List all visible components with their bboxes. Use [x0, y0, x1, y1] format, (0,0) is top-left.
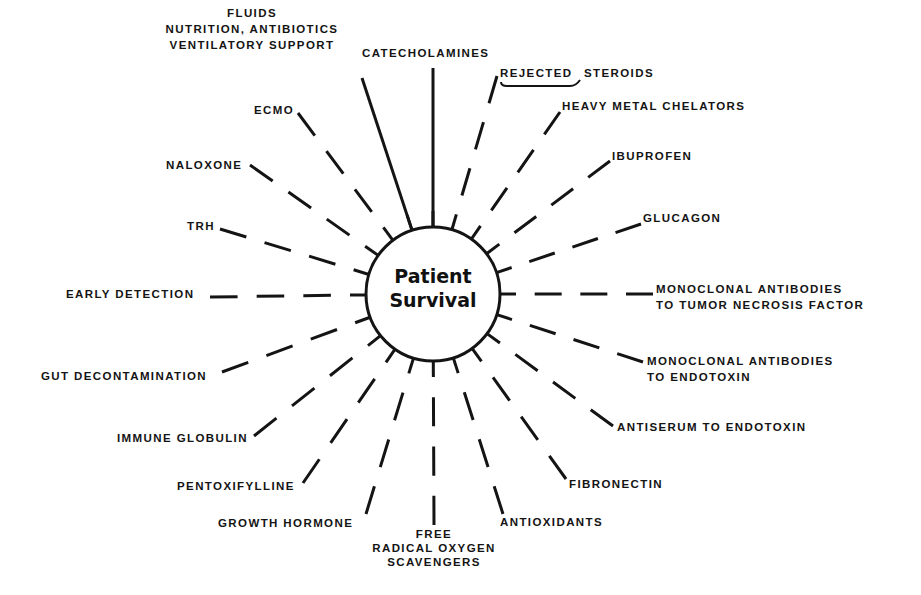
label-catecholamines: CATECHOLAMINES: [362, 45, 489, 61]
label-immune-globulin: IMMUNE GLOBULIN: [117, 430, 248, 446]
label-mab-tnf-line1: MONOCLONAL ANTIBODIES: [656, 281, 864, 297]
tick-growth-hormone: [409, 358, 414, 373]
tick-heavy-metal-chelators: [471, 226, 480, 239]
label-heavy-metal: HEAVY METAL CHELATORS: [562, 98, 745, 114]
tick-fibronectin: [472, 348, 481, 361]
ray-trh: [220, 229, 354, 270]
label-mab-tnf: MONOCLONAL ANTIBODIES TO TUMOR NECROSIS …: [656, 281, 864, 313]
center-title-line1: Patient: [366, 264, 500, 288]
center-title: Patient Survival: [366, 264, 500, 312]
label-gut-decontamination: GUT DECONTAMINATION: [41, 368, 207, 384]
tick-immune-globulin: [368, 336, 381, 346]
ray-pentoxifylline: [303, 362, 386, 483]
label-trh: TRH: [187, 218, 215, 234]
label-ibuprofen: IBUPROFEN: [612, 148, 692, 164]
label-mab-tnf-line2: TO TUMOR NECROSIS FACTOR: [656, 297, 864, 313]
ray-early-detection: [210, 295, 350, 297]
label-mab-endo-line1: MONOCLONAL ANTIBODIES: [647, 353, 834, 369]
tick-antioxidants: [453, 358, 458, 373]
tick-mab-endotoxin: [497, 315, 512, 320]
ray-glucagon: [512, 224, 641, 268]
label-glucagon: GLUCAGON: [643, 210, 721, 226]
label-nutrition: NUTRITION, ANTIBIOTICS: [158, 21, 346, 37]
ray-immune-globulin: [254, 346, 368, 436]
tick-naloxone: [365, 246, 378, 255]
ray-antiserum-endotoxin: [500, 343, 613, 426]
ray-steroids: [456, 76, 497, 214]
label-free-line1: FREE: [354, 527, 514, 541]
tick-pentoxifylline: [386, 349, 395, 362]
label-naloxone: NALOXONE: [166, 157, 242, 173]
tick-gut-decontamination: [355, 317, 370, 323]
tick-steroids: [452, 214, 457, 229]
label-antioxidants: ANTIOXIDANTS: [500, 514, 603, 530]
ray-mab-endotoxin: [512, 320, 643, 362]
ray-gut-decontamination: [222, 323, 355, 372]
label-fluids-group: FLUIDS NUTRITION, ANTIBIOTICS VENTILATOR…: [158, 5, 346, 53]
ray-ecmo: [298, 113, 383, 227]
label-pentoxifylline: PENTOXIFYLLINE: [177, 478, 295, 494]
label-ecmo: ECMO: [254, 102, 294, 118]
ray-free-radical-scavengers: [433, 377, 434, 525]
ray-growth-hormone: [366, 373, 409, 514]
label-fibronectin: FIBRONECTIN: [569, 476, 663, 492]
tick-antiserum-endotoxin: [487, 334, 500, 343]
tick-ibuprofen: [487, 244, 500, 254]
label-fluids: FLUIDS: [158, 5, 346, 21]
tick-ecmo: [383, 227, 393, 240]
label-growth-hormone: GROWTH HORMONE: [218, 515, 353, 531]
label-mab-endotoxin: MONOCLONAL ANTIBODIES TO ENDOTOXIN: [647, 353, 834, 385]
ray-fibronectin: [481, 361, 566, 479]
center-title-line2: Survival: [366, 288, 500, 312]
label-antiserum: ANTISERUM TO ENDOTOXIN: [617, 419, 806, 435]
tick-ventilatory-support: [407, 215, 412, 230]
ray-naloxone: [250, 165, 365, 246]
label-ventilatory: VENTILATORY SUPPORT: [158, 37, 346, 53]
label-steroids: STEROIDS: [584, 65, 654, 81]
label-free-line3: SCAVENGERS: [354, 555, 514, 569]
ray-heavy-metal-chelators: [480, 112, 560, 226]
label-mab-endo-line2: TO ENDOTOXIN: [647, 369, 834, 385]
label-early-detection: EARLY DETECTION: [66, 286, 194, 302]
ray-ibuprofen: [499, 161, 610, 244]
label-rejected: REJECTED: [500, 65, 573, 81]
label-free-radical: FREE RADICAL OXYGEN SCAVENGERS: [354, 527, 514, 569]
label-free-line2: RADICAL OXYGEN: [354, 541, 514, 555]
ray-antioxidants: [458, 373, 503, 514]
